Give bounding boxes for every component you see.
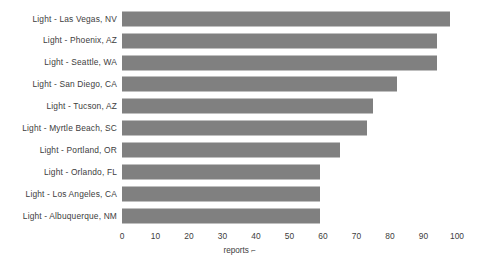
bar-chart: Light - Las Vegas, NVLight - Phoenix, AZ…	[0, 0, 479, 268]
sort-indicator-icon: ⌐	[251, 247, 256, 255]
x-tick-label: 50	[285, 232, 294, 240]
bar-track	[122, 99, 373, 114]
bar[interactable]	[122, 55, 437, 70]
x-axis: 0102030405060708090100	[0, 232, 479, 246]
bar-track	[122, 33, 437, 48]
bar-track	[122, 77, 397, 92]
bar-row: Light - Portland, OR	[0, 139, 479, 161]
bar[interactable]	[122, 121, 367, 136]
category-label: Light - Albuquerque, NM	[0, 212, 117, 220]
category-label: Light - Seattle, WA	[0, 58, 117, 66]
bar[interactable]	[122, 11, 450, 26]
plot-area: Light - Las Vegas, NVLight - Phoenix, AZ…	[0, 0, 479, 268]
x-axis-title: reports⌐	[0, 247, 479, 255]
bar-row: Light - San Diego, CA	[0, 74, 479, 96]
bar-track	[122, 11, 450, 26]
bar-row: Light - Las Vegas, NV	[0, 8, 479, 30]
bar[interactable]	[122, 99, 373, 114]
bar-row: Light - Seattle, WA	[0, 52, 479, 74]
bar-row: Light - Tucson, AZ	[0, 96, 479, 118]
x-tick-label: 10	[151, 232, 160, 240]
bar[interactable]	[122, 33, 437, 48]
bar-row: Light - Albuquerque, NM	[0, 205, 479, 227]
x-axis-title-label: reports	[223, 246, 248, 255]
bar-track	[122, 55, 437, 70]
category-label: Light - San Diego, CA	[0, 80, 117, 88]
x-tick-label: 30	[218, 232, 227, 240]
x-tick-label: 20	[184, 232, 193, 240]
bar[interactable]	[122, 143, 340, 158]
x-tick-label: 40	[251, 232, 260, 240]
bar-row: Light - Phoenix, AZ	[0, 30, 479, 52]
bar[interactable]	[122, 165, 320, 180]
bar-row: Light - Myrtle Beach, SC	[0, 118, 479, 140]
category-label: Light - Las Vegas, NV	[0, 15, 117, 23]
bar-track	[122, 165, 320, 180]
bar[interactable]	[122, 186, 320, 201]
x-tick-label: 60	[318, 232, 327, 240]
category-label: Light - Myrtle Beach, SC	[0, 124, 117, 132]
bar-track	[122, 143, 340, 158]
bar[interactable]	[122, 77, 397, 92]
x-tick-label: 90	[419, 232, 428, 240]
bar[interactable]	[122, 208, 320, 223]
bar-row: Light - Orlando, FL	[0, 161, 479, 183]
category-label: Light - Los Angeles, CA	[0, 190, 117, 198]
bar-track	[122, 208, 320, 223]
x-tick-label: 80	[385, 232, 394, 240]
category-label: Light - Tucson, AZ	[0, 102, 117, 110]
category-label: Light - Portland, OR	[0, 146, 117, 154]
category-label: Light - Orlando, FL	[0, 168, 117, 176]
x-tick-label: 0	[120, 232, 125, 240]
x-tick-label: 70	[352, 232, 361, 240]
bar-track	[122, 186, 320, 201]
category-label: Light - Phoenix, AZ	[0, 36, 117, 44]
bar-track	[122, 121, 367, 136]
bar-row: Light - Los Angeles, CA	[0, 183, 479, 205]
x-tick-label: 100	[450, 232, 464, 240]
